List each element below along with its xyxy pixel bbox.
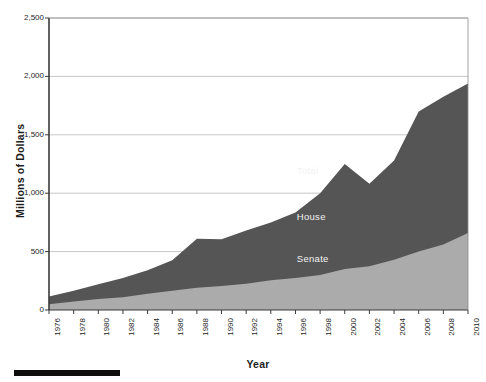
x-axis-tick-label: 1984 [152,318,161,350]
x-axis-tick-label: 1994 [275,318,284,350]
y-axis-tick-label: 2,000 [8,71,44,80]
series-annotation-total: Total [297,165,319,176]
series-annotation-house: House [297,211,326,222]
y-axis-tick-label: 1,500 [8,130,44,139]
chart-container: Millions of Dollars Year 05001,0001,5002… [0,0,486,382]
x-axis-tick-label: 1992 [250,318,259,350]
x-axis-tick-label: 2000 [349,318,358,350]
y-axis-tick-label: 500 [8,247,44,256]
series-annotation-senate: Senate [297,253,329,264]
x-axis-tick-label: 2004 [398,318,407,350]
y-axis-tick-label: 1,000 [8,188,44,197]
x-axis-tick-label: 2006 [423,318,432,350]
x-axis-tick-label: 1990 [226,318,235,350]
x-axis-tick-label: 1976 [53,318,62,350]
x-axis-tick-label: 1978 [78,318,87,350]
bottom-rule [14,370,120,376]
y-axis-tick-label: 2,500 [8,13,44,22]
x-axis-tick-label: 2010 [472,318,481,350]
x-axis-tick-label: 1998 [324,318,333,350]
x-axis-tick-label: 2002 [373,318,382,350]
chart-plot [0,0,486,382]
x-axis-tick-label: 1988 [201,318,210,350]
y-axis-tick-label: 0 [8,305,44,314]
x-axis-tick-label: 1996 [299,318,308,350]
x-axis-tick-label: 1982 [127,318,136,350]
x-axis-tick-label: 2008 [447,318,456,350]
x-axis-tick-label: 1980 [102,318,111,350]
x-axis-tick-label: 1986 [176,318,185,350]
x-axis-title: Year [208,358,308,370]
